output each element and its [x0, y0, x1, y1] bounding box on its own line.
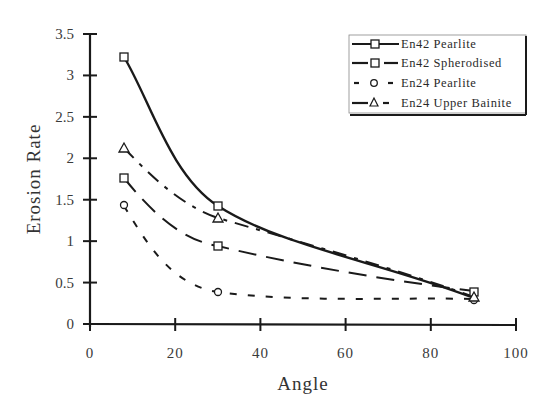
legend-label: En24 Pearlite: [401, 76, 477, 90]
x-tick-label: 40: [252, 345, 269, 361]
marker-square: [120, 174, 128, 182]
y-tick-label: 0: [67, 316, 75, 332]
legend-label: En42 Pearlite: [401, 37, 477, 51]
erosion-rate-chart: Erosion Rate Angle 00.511.522.533.5 0204…: [0, 0, 549, 410]
marker-square: [120, 53, 128, 61]
curve-en24-pearlite: [124, 206, 474, 299]
marker-circle: [215, 289, 222, 296]
y-tick-label: 3: [67, 67, 75, 83]
marker-square: [214, 202, 222, 210]
marker-circle: [121, 202, 128, 209]
legend-label: En42 Spherodised: [401, 56, 502, 70]
y-tick-label: 0.5: [55, 275, 74, 291]
curve-en24-upper-bainite: [124, 148, 474, 297]
x-tick-label: 60: [337, 345, 354, 361]
x-tick-label: 100: [503, 345, 529, 361]
legend: En42 Pearlite En42 Spherodised En24 Pear…: [349, 35, 526, 115]
marker-triangle: [119, 143, 129, 152]
marker-square: [214, 242, 222, 250]
y-tick-label: 2: [67, 150, 75, 166]
x-axis-title: Angle: [277, 373, 328, 394]
y-tick-label: 1: [67, 233, 75, 249]
y-tick-label: 2.5: [55, 109, 74, 125]
y-tick-label: 3.5: [55, 26, 74, 42]
x-tick-label: 20: [167, 345, 184, 361]
y-tick-label: 1.5: [55, 192, 74, 208]
y-axis-title: Erosion Rate: [23, 124, 44, 235]
x-tick-label: 80: [422, 345, 439, 361]
legend-label: En24 Upper Bainite: [401, 96, 512, 110]
x-tick-label: 0: [86, 345, 95, 361]
